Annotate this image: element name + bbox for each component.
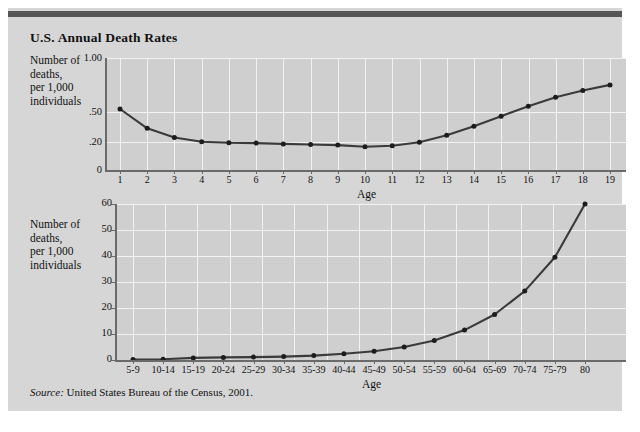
chart-top-ytick: .20 — [60, 136, 102, 147]
chart-top-xtick: 17 — [542, 174, 570, 185]
chart-bottom-ytick: 60 — [70, 197, 112, 208]
chart-top-xtick: 5 — [215, 174, 243, 185]
chart-top-xtick: 1 — [106, 174, 134, 185]
chart-bottom-plot — [117, 204, 626, 360]
chart-bottom-ytick: 10 — [70, 327, 112, 338]
chart-top-xtick: 8 — [297, 174, 325, 185]
chart-bottom-xtick: 50-54 — [388, 364, 420, 375]
chart-bottom-xtick: 60-64 — [448, 364, 480, 375]
figure-panel: U.S. Annual Death Rates Number of deaths… — [8, 8, 622, 411]
chart-top-xtick: 14 — [460, 174, 488, 185]
chart-top-xtick: 6 — [242, 174, 270, 185]
chart-bottom-xtick: 10-14 — [147, 364, 179, 375]
chart-top: Number of deaths, per 1,000 individuals — [8, 8, 622, 193]
chart-top-plot — [107, 58, 626, 170]
chart-top-xtick: 4 — [188, 174, 216, 185]
chart-top-xtick: 15 — [487, 174, 515, 185]
chart-top-xtick: 10 — [351, 174, 379, 185]
chart-top-xtick: 12 — [405, 174, 433, 185]
chart-bottom-xtick: 20-24 — [207, 364, 239, 375]
source-label: Source: — [30, 386, 64, 398]
chart-top-xtick: 13 — [433, 174, 461, 185]
chart-bottom-series — [117, 204, 626, 360]
chart-top-xtick: 3 — [160, 174, 188, 185]
chart-bottom-ytick: 20 — [70, 301, 112, 312]
chart-bottom-xtick: 5-9 — [117, 364, 149, 375]
chart-top-ytick: .50 — [60, 106, 102, 117]
chart-top-xtick: 16 — [514, 174, 542, 185]
chart-bottom-ytick: 30 — [70, 275, 112, 286]
chart-bottom-xtick: 70-74 — [509, 364, 541, 375]
chart-bottom-xtick: 55-59 — [418, 364, 450, 375]
chart-bottom-ytick: 40 — [70, 249, 112, 260]
chart-top-ytick: 0 — [60, 164, 102, 175]
chart-bottom-ytick: 50 — [70, 223, 112, 234]
chart-top-ytick: 1.00 — [60, 52, 102, 63]
chart-top-series — [107, 58, 626, 170]
chart-top-xtick: 18 — [569, 174, 597, 185]
chart-top-xtick: 2 — [133, 174, 161, 185]
chart-top-xtick: 7 — [269, 174, 297, 185]
chart-bottom-xtick: 35-39 — [298, 364, 330, 375]
source-text: United States Bureau of the Census, 2001… — [67, 386, 253, 398]
chart-top-xtick: 11 — [378, 174, 406, 185]
chart-bottom-xtick: 80 — [569, 364, 601, 375]
source-note: Source: United States Bureau of the Cens… — [30, 386, 253, 398]
chart-top-xtick: 19 — [596, 174, 624, 185]
chart-top-xtick: 9 — [324, 174, 352, 185]
chart-bottom-xtick: 45-49 — [358, 364, 390, 375]
chart-bottom-xtick: 65-69 — [479, 364, 511, 375]
chart-bottom-xtick: 75-79 — [539, 364, 571, 375]
chart-bottom-xtick: 40-44 — [328, 364, 360, 375]
chart-bottom-xtick: 15-19 — [177, 364, 209, 375]
chart-bottom-xtick: 25-29 — [238, 364, 270, 375]
chart-bottom-xtick: 30-34 — [268, 364, 300, 375]
chart-bottom: Number of deaths, per 1,000 individuals — [8, 196, 622, 386]
chart-bottom-ytick: 0 — [70, 353, 112, 364]
